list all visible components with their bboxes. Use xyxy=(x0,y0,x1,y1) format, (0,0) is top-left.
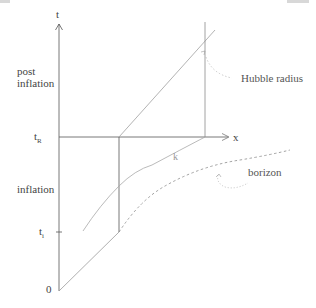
t-R-label: tR xyxy=(34,130,42,147)
post-inflation-label-line1: post xyxy=(17,65,35,77)
k-label: k xyxy=(173,151,178,163)
spacetime-diagram: t x post inflation tR inflation ti 0 k H… xyxy=(0,0,316,308)
x-axis-label: x xyxy=(233,131,239,143)
t-i-subscript: i xyxy=(42,232,44,240)
t-axis-label: t xyxy=(56,8,59,20)
hubble-marker-icon xyxy=(201,51,205,55)
hubble-pointer xyxy=(206,57,232,78)
origin-label: 0 xyxy=(46,283,52,295)
horizon-pointer-arrow-icon xyxy=(216,174,221,177)
page-artifact-right xyxy=(287,0,309,3)
post-inflation-label-line2: inflation xyxy=(17,77,54,89)
hubble-radius-label: Hubble radius xyxy=(241,72,303,84)
t-R-subscript: R xyxy=(37,137,42,145)
horizon-pointer xyxy=(218,175,248,188)
light-ray-inflation xyxy=(59,232,119,291)
horizon-label: borizon xyxy=(248,166,282,178)
horizon-curve xyxy=(119,150,290,232)
k-mode-curve xyxy=(83,137,205,231)
t-i-label: ti xyxy=(39,225,44,242)
page-artifact-left xyxy=(0,0,10,3)
light-ray-post-inflation xyxy=(119,30,215,137)
diagram-canvas xyxy=(0,0,316,308)
inflation-label: inflation xyxy=(17,183,54,195)
